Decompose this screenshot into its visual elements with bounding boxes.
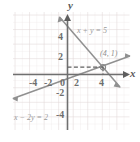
y-tick-minus-4: -4 bbox=[56, 110, 64, 120]
y-tick-4: 4 bbox=[58, 32, 63, 42]
x-tick-4: 4 bbox=[99, 78, 104, 88]
x-tick-minus-4: -4 bbox=[29, 78, 37, 88]
x-tick-minus-2: -2 bbox=[44, 78, 52, 88]
graph-figure: y x -4 -2 0 2 4 4 2 -2 -4 x + y = 5 x − … bbox=[0, 0, 140, 142]
x-axis-label: x bbox=[130, 68, 136, 79]
x-tick-2: 2 bbox=[74, 78, 79, 88]
y-tick-minus-2: -2 bbox=[56, 88, 64, 98]
equation-label-line1: x + y = 5 bbox=[77, 27, 107, 35]
y-tick-2: 2 bbox=[58, 52, 63, 62]
y-axis-label: y bbox=[68, 0, 73, 11]
equation-label-line2: x − 2y = 2 bbox=[14, 114, 48, 122]
intersection-point-label: (4, 1) bbox=[100, 50, 117, 58]
